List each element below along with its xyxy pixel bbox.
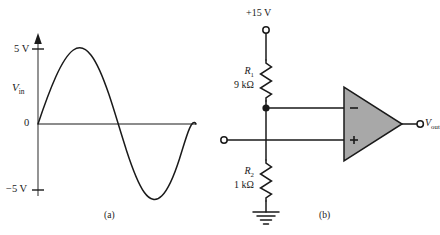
vin-label-symbol: V [12,81,19,93]
vout-subscript: out [431,123,440,130]
supply-voltage-label: +15 V [246,8,271,18]
y-label-zero: 0 [24,118,29,129]
caption-b: (b) [319,211,330,221]
r1-designator-label: R1 [220,66,254,79]
y-label-plus-5v: 5 V [14,44,29,55]
op-amp-triangle [344,87,402,161]
output-terminal-circle [417,121,423,127]
y-axis-arrowhead [34,33,42,44]
panel-b-circuit: +15 V R1 9 kΩ R2 1 kΩ Vout (b) [216,0,432,235]
waveform-svg [0,0,216,235]
supply-terminal-circle [263,27,269,33]
r2-value-label: 1 kΩ [216,180,254,190]
circuit-svg [216,0,432,235]
r1-value-label: 9 kΩ [216,80,254,90]
panel-a-waveform: 5 V 0 −5 V Vin (a) [0,0,216,235]
vin-label: Vin [12,82,25,96]
vin-label-subscript: in [19,87,25,96]
vout-label: Vout [425,118,440,131]
r2-designator-label: R2 [220,166,254,179]
r1-subscript: 1 [251,71,254,78]
input-terminal-circle [221,137,227,143]
resistor-r2-zigzag [261,160,272,201]
caption-a: (a) [104,211,115,221]
r2-subscript: 2 [251,171,254,178]
y-label-minus-5v: −5 V [6,184,27,195]
resistor-r1-zigzag [261,60,272,101]
